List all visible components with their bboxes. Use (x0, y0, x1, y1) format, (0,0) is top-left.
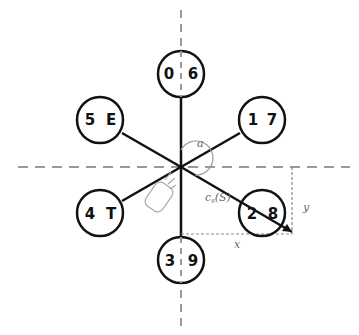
node-lower-left[interactable]: 4 T (77, 190, 123, 236)
node-top-right-label: 6 (188, 65, 198, 83)
angle-label: a (197, 137, 204, 150)
node-lower-left-right-label: T (106, 205, 117, 223)
radial-diagram: 0 6 1 7 2 8 3 9 4 T 5 E a cs(S) x y (0, 0, 359, 335)
y-label: y (302, 201, 310, 214)
node-upper-left[interactable]: 5 E (77, 97, 123, 143)
node-bottom-right-label: 9 (188, 252, 198, 270)
node-lower-right-left-label: 2 (247, 205, 257, 223)
node-top-left-label: 0 (164, 65, 174, 83)
vector-label: cs(S) (205, 191, 231, 205)
node-bottom[interactable]: 3 9 (158, 237, 204, 283)
node-upper-left-left-label: 5 (85, 111, 95, 129)
node-lower-left-left-label: 4 (85, 205, 95, 223)
node-lower-right-right-label: 8 (268, 205, 278, 223)
node-upper-left-right-label: E (106, 111, 116, 129)
node-top[interactable]: 0 6 (158, 51, 204, 97)
node-upper-right-right-label: 7 (267, 111, 277, 129)
x-label: x (234, 238, 241, 251)
node-upper-right-left-label: 1 (248, 111, 258, 129)
node-upper-right[interactable]: 1 7 (239, 97, 285, 143)
node-bottom-left-label: 3 (165, 252, 175, 270)
